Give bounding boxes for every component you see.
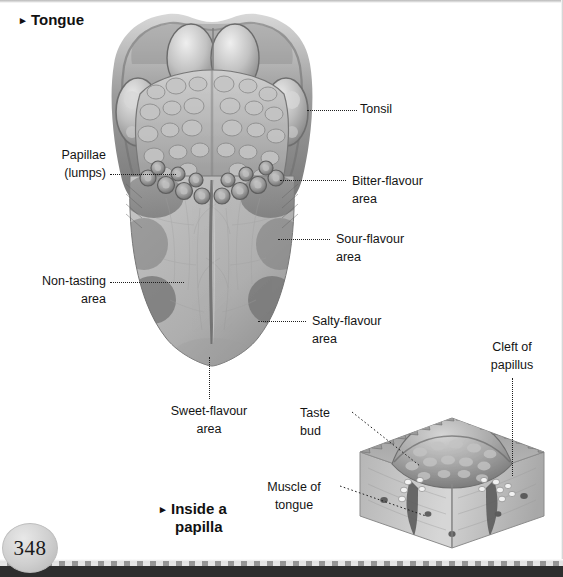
leader-muscle-of-tongue	[340, 484, 432, 520]
tongue-illustration	[96, 8, 328, 378]
label-taste-bud: Taste bud	[300, 404, 352, 440]
leader-sour-flavour	[278, 239, 330, 240]
page-number-badge: 348	[2, 523, 58, 573]
leader-tonsil	[307, 110, 357, 111]
page-footer-band	[0, 555, 563, 577]
label-salty-flavour: Salty-flavour area	[312, 312, 432, 348]
page-title-text: Tongue	[31, 11, 84, 28]
label-sour-line2: area	[336, 248, 454, 266]
label-sour-flavour: Sour-flavour area	[336, 230, 454, 266]
label-non-tasting-line1: Non-tasting	[42, 274, 106, 288]
page-number-text: 348	[14, 536, 47, 561]
label-cleft-line1: Cleft of	[492, 340, 532, 354]
label-papillae: Papillae (lumps)	[0, 146, 106, 182]
inset-title-text: Inside a	[171, 500, 227, 517]
leader-sweet-flavour	[209, 357, 210, 399]
leader-salty-flavour	[258, 321, 306, 322]
leader-non-tasting	[110, 282, 184, 283]
label-bitter-line1: Bitter-flavour	[352, 174, 423, 188]
label-tonsil: Tonsil	[360, 100, 392, 118]
leader-papillae	[110, 174, 176, 175]
label-muscle-line2: tongue	[248, 496, 340, 514]
inset-title: ▸Inside a papilla	[160, 500, 227, 535]
page-title: ▸Tongue	[20, 11, 84, 29]
label-papillae-line2: (lumps)	[0, 164, 106, 182]
inset-title-text-line2: papilla	[175, 518, 227, 535]
page-top-edge	[0, 0, 563, 3]
leader-bitter-flavour	[280, 180, 346, 181]
label-non-tasting-line2: area	[0, 290, 106, 308]
label-cleft-of-papillus: Cleft of papillus	[462, 338, 562, 374]
label-bitter-line2: area	[352, 190, 472, 208]
label-papillae-line1: Papillae	[62, 148, 106, 162]
label-sweet-flavour: Sweet-flavour area	[150, 402, 268, 438]
label-salty-line1: Salty-flavour	[312, 314, 381, 328]
leader-taste-bud	[352, 408, 428, 472]
triangle-bullet-icon: ▸	[20, 12, 26, 29]
label-sour-line1: Sour-flavour	[336, 232, 404, 246]
label-sweet-line1: Sweet-flavour	[171, 404, 247, 418]
label-taste-bud-line1: Taste	[300, 406, 330, 420]
label-sweet-line2: area	[150, 420, 268, 438]
textbook-page: ▸Tongue ▸Inside a papilla Tonsil Papilla…	[0, 0, 563, 577]
label-muscle-line1: Muscle of	[267, 480, 321, 494]
label-non-tasting: Non-tasting area	[0, 272, 106, 308]
label-tonsil-line1: Tonsil	[360, 102, 392, 116]
label-salty-line2: area	[312, 330, 432, 348]
leader-cleft-of-papillus	[512, 378, 513, 476]
label-cleft-line2: papillus	[462, 356, 562, 374]
label-muscle-of-tongue: Muscle of tongue	[248, 478, 340, 514]
label-bitter-flavour: Bitter-flavour area	[352, 172, 472, 208]
label-taste-bud-line2: bud	[300, 422, 352, 440]
triangle-bullet-icon: ▸	[160, 501, 166, 518]
footer-band-dark	[0, 566, 563, 577]
